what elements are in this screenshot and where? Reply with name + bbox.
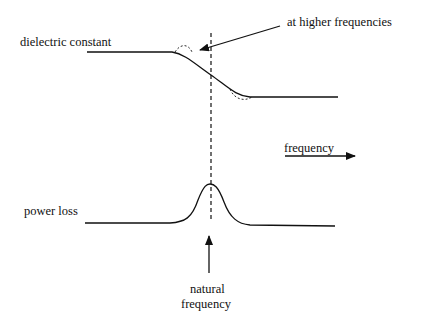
dielectric-constant-label: dielectric constant [20, 36, 111, 49]
power-loss-label: power loss [24, 205, 78, 218]
power-loss-curve [85, 184, 335, 226]
dielectric-dispersion-diagram: dielectric constant at higher frequencie… [0, 0, 421, 322]
frequency-axis-label: frequency [284, 142, 334, 155]
higher-frequencies-label: at higher frequencies [287, 16, 392, 29]
overshoot-dashed-top [175, 46, 192, 52]
natural-label-line1: natural [190, 283, 225, 296]
higher-frequencies-arrow [200, 26, 280, 50]
dielectric-curve [87, 52, 338, 97]
natural-label-line2: frequency [181, 298, 231, 311]
